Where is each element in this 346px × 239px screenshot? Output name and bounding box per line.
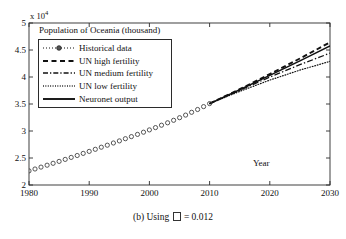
y-tick-label: 4 — [8, 72, 26, 82]
legend-marker-solid — [42, 93, 76, 105]
x-tick-label: 1990 — [80, 188, 98, 198]
x-tick-label: 2020 — [261, 188, 279, 198]
y-tick-label: 3 — [8, 126, 26, 136]
y-tick-label: 3.5 — [4, 99, 26, 109]
y-tick-label: 5 — [8, 18, 26, 28]
x-axis-label: Year — [253, 158, 270, 168]
y-tick-label: 4.5 — [4, 45, 26, 55]
legend-item-neuronet-output: Neuronet output — [42, 92, 168, 105]
legend-item-un-low-fertility: UN low fertility — [42, 80, 168, 93]
x-tick-label: 2010 — [201, 188, 219, 198]
legend-item-un-medium-fertility: UN medium fertility — [42, 67, 168, 80]
legend-marker-dash-dot — [42, 67, 76, 79]
figure-caption: (b) Using = 0.012 — [0, 212, 346, 222]
figure-panel: x 104 — [0, 0, 346, 239]
legend-marker-dashed — [42, 55, 76, 67]
chart-canvas — [0, 0, 346, 239]
caption-prefix: (b) Using — [133, 212, 169, 222]
legend-item-historical-data: Historical data — [42, 42, 168, 55]
legend-label: Neuronet output — [76, 94, 138, 104]
y-tick-label: 2.5 — [4, 153, 26, 163]
x-tick-label: 1980 — [20, 188, 38, 198]
legend-marker-fine-dotted — [42, 80, 76, 92]
legend-item-un-high-fertility: UN high fertility — [42, 55, 168, 68]
legend-label: Historical data — [76, 43, 132, 53]
caption-suffix: = 0.012 — [184, 212, 213, 222]
x-tick-label: 2000 — [140, 188, 158, 198]
legend-marker-dotted-circle — [42, 42, 76, 54]
chart-legend: Historical data UN high fertility UN med… — [38, 39, 172, 108]
chart-title: Population of Oceania (thousand) — [39, 25, 160, 35]
legend-label: UN low fertility — [76, 81, 137, 91]
legend-label: UN medium fertility — [76, 68, 153, 78]
legend-label: UN high fertility — [76, 56, 140, 66]
caption-missing-glyph-icon — [173, 212, 181, 221]
x-tick-label: 2030 — [321, 188, 339, 198]
